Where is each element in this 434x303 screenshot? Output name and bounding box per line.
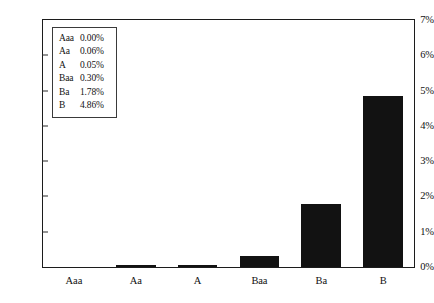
x-tick-label: B [380, 276, 387, 287]
legend-row: Baa0.30% [53, 74, 116, 87]
x-tick-label: Ba [316, 276, 327, 287]
legend-key: A [59, 61, 80, 71]
legend-box: Aaa0.00%Aa0.06%A0.05%Baa0.30%Ba1.78%B4.8… [52, 27, 117, 118]
legend-key: Aaa [59, 34, 80, 44]
legend-value: 0.30% [80, 74, 104, 84]
x-tick-label: Aaa [66, 276, 83, 287]
legend-row: Ba1.78% [53, 88, 116, 101]
legend-row: Aa0.06% [53, 47, 116, 60]
legend-value: 4.86% [80, 101, 104, 111]
x-tick-label: Aa [130, 276, 142, 287]
bar-ba [301, 204, 341, 267]
legend-value: 1.78% [80, 88, 104, 98]
bar-baa [240, 256, 280, 267]
legend-row: Aaa0.00% [53, 34, 116, 47]
bar-a [178, 265, 218, 267]
legend-key: B [59, 101, 80, 111]
x-tick-label: Baa [251, 276, 267, 287]
legend-value: 0.06% [80, 47, 104, 57]
legend-row: A0.05% [53, 61, 116, 74]
bar-b [363, 96, 403, 267]
legend-key: Ba [59, 88, 80, 98]
legend-key: Baa [59, 74, 80, 84]
bar-chart: 0%1%2%3%4%5%6%7% AaaAaABaaBaB Aaa0.00%Aa… [0, 0, 434, 303]
legend-key: Aa [59, 47, 80, 57]
x-tick-label: A [194, 276, 201, 287]
bar-aa [116, 265, 156, 267]
legend-value: 0.05% [80, 61, 104, 71]
legend-row: B4.86% [53, 101, 116, 114]
legend-value: 0.00% [80, 34, 104, 44]
